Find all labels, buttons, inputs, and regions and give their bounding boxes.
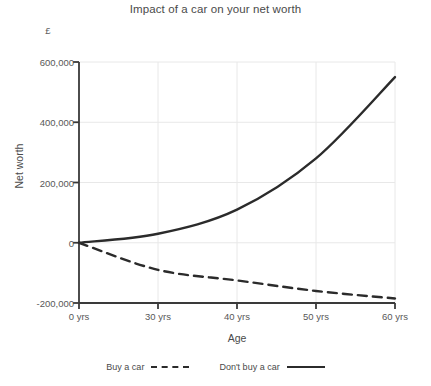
y-axis-tick-label: 200,000 [8, 177, 74, 188]
legend-label: Don't buy a car [219, 362, 279, 372]
legend-item[interactable]: Buy a car [106, 362, 189, 372]
y-axis-tick-labels: 600,000400,000200,0000-200,000 [4, 0, 74, 386]
net-worth-chart: Impact of a car on your net worth £ Net … [0, 0, 431, 386]
y-axis-tick-label: 400,000 [8, 117, 74, 128]
y-axis-tick-label: 0 [8, 237, 74, 248]
x-axis-tick-label: 60 yrs [365, 311, 425, 322]
y-axis-tick-label: 600,000 [8, 57, 74, 68]
legend-swatch-dashed [151, 366, 189, 368]
y-axis-tick-label: -200,000 [8, 298, 74, 309]
x-axis-tick-label: 50 yrs [286, 311, 346, 322]
chart-legend: Buy a carDon't buy a car [0, 362, 431, 372]
x-axis-tick-label: 0 yrs [49, 311, 109, 322]
legend-label: Buy a car [106, 362, 144, 372]
x-axis-tick-label: 30 yrs [128, 311, 188, 322]
x-axis-tick-label: 40 yrs [207, 311, 267, 322]
legend-item[interactable]: Don't buy a car [219, 362, 324, 372]
legend-swatch-solid [287, 366, 325, 368]
